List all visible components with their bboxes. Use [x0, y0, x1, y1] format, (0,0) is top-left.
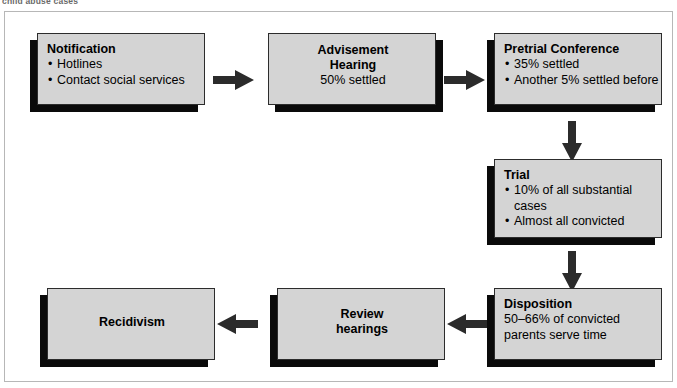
flow-node-review-hearings: Review hearings	[277, 288, 445, 360]
node-title: Notification	[47, 42, 197, 57]
node-title: Pretrial Conference	[504, 42, 654, 57]
arrow-review-to-recidivism	[217, 313, 259, 335]
flow-node-notification: Notification Hotlines Contact social ser…	[37, 33, 205, 105]
node-title-line: Review	[340, 307, 383, 322]
flow-node-advisement-hearing: Advisement Hearing 50% settled	[268, 33, 436, 105]
figure-caption: child abuse cases	[2, 0, 78, 6]
node-title-line: Recidivism	[99, 315, 165, 330]
arrow-advisement-to-pretrial	[444, 69, 486, 91]
node-line: parents serve time	[504, 328, 654, 344]
node-bullet: 35% settled	[504, 57, 654, 73]
node-title-line: Hearing	[330, 58, 377, 73]
arrow-notification-to-advisement	[213, 69, 255, 91]
node-bullet: Contact social services	[47, 73, 197, 89]
node-content: Trial 10% of all substantial cases Almos…	[494, 159, 662, 238]
flow-node-disposition: Disposition 50–66% of convicted parents …	[494, 288, 662, 360]
figure-frame: Notification Hotlines Contact social ser…	[4, 11, 673, 382]
node-content: Recidivism	[47, 288, 215, 360]
arrow-disposition-to-review	[447, 313, 489, 335]
arrow-pretrial-to-trial	[561, 121, 583, 163]
node-bullet: Another 5% settled before	[504, 73, 654, 89]
node-line: 50% settled	[320, 73, 385, 89]
node-content: Pretrial Conference 35% settled Another …	[494, 33, 662, 105]
node-line: 50–66% of convicted	[504, 312, 654, 328]
node-content: Advisement Hearing 50% settled	[268, 33, 436, 105]
node-content: Notification Hotlines Contact social ser…	[37, 33, 205, 105]
node-content: Review hearings	[277, 288, 445, 360]
node-bullet: Almost all convicted	[504, 214, 654, 230]
node-title-line: Advisement	[318, 43, 389, 58]
node-bullet: 10% of all substantial	[504, 183, 654, 199]
node-content: Disposition 50–66% of convicted parents …	[494, 288, 662, 360]
node-bullet-continuation: cases	[504, 199, 654, 215]
flow-node-recidivism: Recidivism	[47, 288, 215, 360]
node-title: Trial	[504, 168, 654, 183]
flow-node-pretrial-conference: Pretrial Conference 35% settled Another …	[494, 33, 662, 105]
flow-node-trial: Trial 10% of all substantial cases Almos…	[494, 159, 662, 238]
node-title-line: hearings	[336, 322, 388, 337]
arrow-trial-to-disposition	[561, 251, 583, 293]
node-bullet: Hotlines	[47, 57, 197, 73]
node-title: Disposition	[504, 297, 654, 312]
